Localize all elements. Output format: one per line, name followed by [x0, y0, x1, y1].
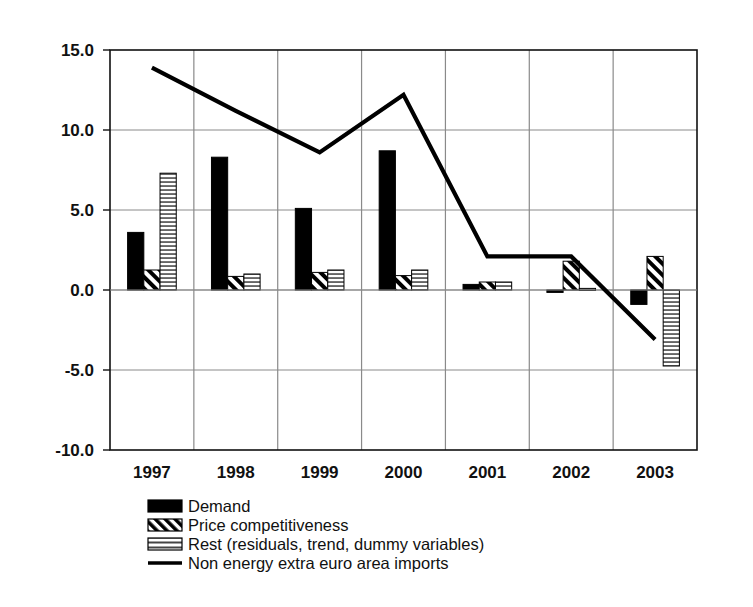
- legend-swatch-diagonal-hatch-swatch: [148, 519, 182, 531]
- x-tick-label: 2001: [468, 463, 506, 482]
- legend-item-label: Non energy extra euro area imports: [188, 554, 448, 572]
- bar-horizontal-lines: [328, 270, 344, 290]
- bar-solid-black: [211, 157, 227, 290]
- x-tick-label: 2000: [385, 463, 423, 482]
- y-tick-label: 5.0: [70, 201, 94, 220]
- bar-horizontal-lines: [663, 290, 679, 366]
- bar-horizontal-lines: [160, 173, 176, 290]
- legend-item-label: Rest (residuals, trend, dummy variables): [188, 535, 484, 553]
- bar-diagonal-hatch: [563, 261, 579, 290]
- x-tick-label: 2003: [636, 463, 674, 482]
- bar-diagonal-hatch: [228, 276, 244, 290]
- bar-solid-black: [631, 290, 647, 304]
- y-tick-label: 15.0: [61, 41, 94, 60]
- bar-diagonal-hatch: [395, 276, 411, 290]
- bar-diagonal-hatch: [312, 272, 328, 290]
- bar-horizontal-lines: [412, 270, 428, 290]
- y-tick-label: 0.0: [70, 281, 94, 300]
- bar-diagonal-hatch: [144, 270, 160, 290]
- x-tick-label: 2002: [552, 463, 590, 482]
- bar-solid-black: [463, 284, 479, 290]
- chart-figure: 15.010.05.00.0-5.0-10.0 1997199819992000…: [0, 0, 753, 607]
- bar-solid-black: [379, 151, 395, 290]
- y-tick-label: -5.0: [65, 361, 94, 380]
- bar-solid-black: [295, 208, 311, 290]
- y-tick-label: -10.0: [55, 441, 94, 460]
- bar-diagonal-hatch: [647, 256, 663, 290]
- y-tick-label: 10.0: [61, 121, 94, 140]
- bar-diagonal-hatch: [479, 282, 495, 290]
- bar-horizontal-lines: [244, 274, 260, 290]
- x-tick-label: 1999: [301, 463, 339, 482]
- legend-swatch-solid-black-swatch: [148, 500, 182, 512]
- legend-swatch-horizontal-lines-swatch: [148, 538, 182, 550]
- x-tick-label: 1997: [133, 463, 171, 482]
- bar-solid-black: [128, 232, 144, 290]
- legend-item-label: Demand: [188, 497, 250, 515]
- bar-line-chart-svg: 15.010.05.00.0-5.0-10.0 1997199819992000…: [0, 0, 753, 607]
- legend-item-label: Price competitiveness: [188, 516, 348, 534]
- x-tick-label: 1998: [217, 463, 255, 482]
- bar-horizontal-lines: [495, 282, 511, 290]
